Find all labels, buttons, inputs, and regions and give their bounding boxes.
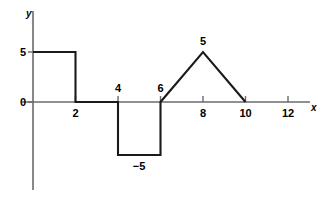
plot-canvas [0,0,335,204]
graph-figure: y x 5 0 2 8 10 12 4 6 5 −5 [0,0,335,204]
function-curve [33,52,246,155]
annotation-x-4: 4 [115,83,121,94]
x-tick-label-8: 8 [200,108,206,119]
x-tick-label-10: 10 [239,108,251,119]
y-axis-label: y [26,9,32,19]
y-tick-label-5: 5 [20,47,26,58]
annotation-x-6: 6 [157,83,163,94]
x-tick-label-12: 12 [282,108,294,119]
x-tick-label-2: 2 [72,108,78,119]
x-axis-label: x [311,103,317,113]
y-tick-label-0: 0 [20,97,26,108]
annotation-trough-minus-5: −5 [133,161,146,172]
annotation-peak-5: 5 [200,36,206,47]
